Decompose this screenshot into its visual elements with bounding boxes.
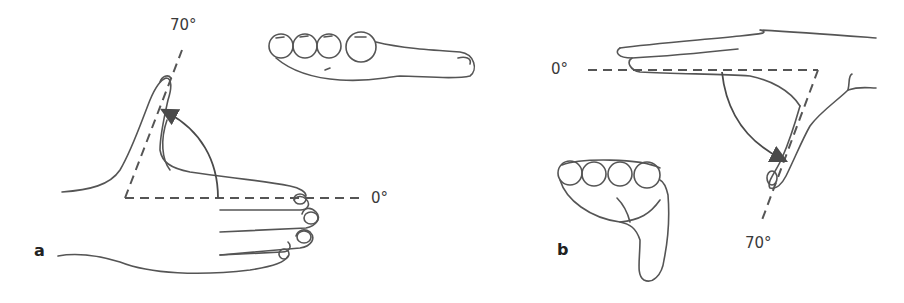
- panel-b-drawing: [558, 30, 876, 281]
- illustration-canvas: [0, 0, 904, 303]
- hand-a-bottom-outline: [58, 254, 288, 273]
- nail-a-2: [304, 212, 318, 224]
- panel-b-label: b: [557, 242, 568, 258]
- index-finger-b: [617, 48, 738, 58]
- finger-b-lower: [629, 58, 800, 106]
- line-70-degree-a: [125, 50, 182, 198]
- range-of-motion-figure: 70° 0° a 0° 70° b: [0, 0, 904, 303]
- panel-a-drawing: [58, 32, 474, 273]
- panel-b-angle-0-label: 0°: [551, 62, 568, 77]
- panel-a-angle-0-label: 0°: [371, 191, 388, 206]
- nail-a-3: [297, 231, 311, 243]
- inset-b-front-view: [558, 160, 669, 281]
- line-70-degree-b: [762, 70, 818, 220]
- panel-b-angle-70-label: 70°: [745, 236, 772, 251]
- panel-a-angle-70-label: 70°: [170, 18, 197, 33]
- thumb-a-crease: [163, 120, 170, 170]
- panel-a-label: a: [34, 243, 45, 259]
- hand-b-top-outline: [620, 30, 876, 48]
- arc-arrow-a: [168, 113, 218, 198]
- thumb-b-outline: [769, 88, 876, 189]
- inset-a-side-view: [269, 32, 474, 81]
- arc-arrow-b: [722, 72, 780, 158]
- thumb-b-crease: [848, 74, 852, 90]
- nail-a-4: [279, 249, 289, 259]
- hand-a-outline: [62, 78, 306, 196]
